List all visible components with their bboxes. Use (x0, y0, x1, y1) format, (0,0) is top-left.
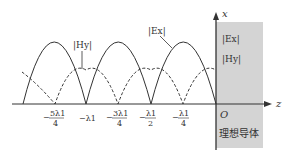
x-axis-label: x (222, 8, 228, 19)
tick-label-neg-lambda-2: − λ1 2 (139, 109, 156, 128)
svg-text:2: 2 (148, 119, 153, 128)
svg-text:−: − (172, 113, 179, 122)
diagram-svg: x z O 理想导体 |Ex| |Hy| |Hy| |Ex| − 5λ1 4 −… (0, 0, 288, 154)
conductor-e-label: |Ex| (222, 34, 240, 45)
svg-text:λ1: λ1 (146, 109, 156, 118)
h-curve-label: |Hy| (73, 40, 92, 51)
svg-text:−λ1: −λ1 (79, 114, 96, 123)
conductor-h-label: |Hy| (222, 54, 241, 65)
svg-text:4: 4 (53, 119, 58, 128)
svg-text:−: − (139, 113, 146, 122)
conductor-label: 理想导体 (219, 127, 259, 139)
tick-label-neg-3-lambda-4: − 3λ1 4 (106, 109, 128, 128)
svg-text:5λ1: 5λ1 (50, 109, 65, 118)
tick-label-neg-lambda: −λ1 (79, 114, 96, 123)
x-axis-arrow-icon (213, 12, 219, 20)
z-axis-arrow-icon (264, 101, 272, 107)
tick-label-neg-lambda-4: − λ1 4 (172, 109, 189, 128)
e-curve-label: |Ex| (148, 26, 166, 37)
svg-text:−: − (43, 113, 50, 122)
tick-label-neg-5-lambda-4: − 5λ1 4 (43, 109, 65, 128)
origin-label: O (220, 109, 228, 120)
h-field-curve (22, 68, 216, 104)
svg-text:λ1: λ1 (179, 109, 189, 118)
svg-text:−: − (106, 113, 113, 122)
standing-wave-diagram: x z O 理想导体 |Ex| |Hy| |Hy| |Ex| − 5λ1 4 −… (0, 0, 288, 154)
svg-text:3λ1: 3λ1 (113, 109, 128, 118)
e-label-leader (160, 36, 172, 48)
svg-text:4: 4 (117, 119, 122, 128)
svg-text:4: 4 (181, 119, 186, 128)
z-axis-label: z (275, 98, 282, 109)
